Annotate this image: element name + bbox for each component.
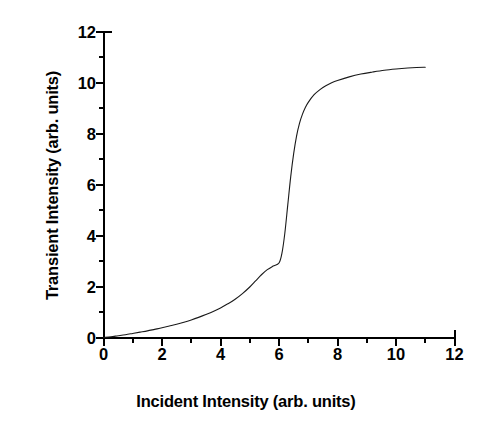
data-series-group: [104, 67, 426, 337]
plot-svg: [0, 0, 492, 438]
axes-group: [96, 32, 455, 346]
chart-figure: Transient Intensity (arb. units) Inciden…: [0, 0, 492, 438]
data-series-line: [104, 67, 426, 337]
